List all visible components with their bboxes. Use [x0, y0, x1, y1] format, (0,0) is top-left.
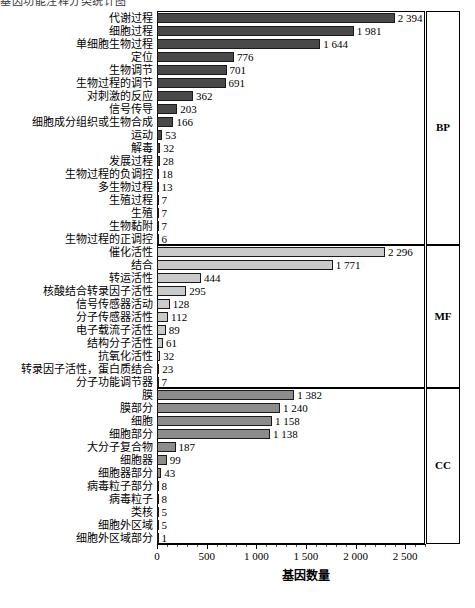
bar	[157, 273, 201, 283]
x-axis-title: 基因数量	[282, 566, 330, 584]
category-label: 分子功能调节器	[76, 376, 153, 389]
category-label: 细胞器部分	[98, 467, 153, 480]
bar	[157, 416, 272, 426]
x-tick-minor	[385, 545, 386, 547]
bar-row: 分子传感器活性112	[157, 311, 425, 324]
category-label: 细胞部分	[109, 428, 153, 441]
x-tick-minor	[236, 545, 237, 547]
bar-value-label: 1 981	[354, 25, 382, 38]
x-tick-major	[306, 545, 307, 549]
bar-row: 结合1 771	[157, 259, 425, 272]
bar-row: 生物过程的正调控6	[157, 233, 425, 246]
category-label: 大分子复合物	[87, 441, 153, 454]
x-tick-minor	[276, 545, 277, 547]
category-label: 类核	[131, 506, 153, 519]
bar-value-label: 1 382	[294, 389, 322, 402]
category-label: 转运活性	[109, 272, 153, 285]
category-label: 细胞器	[120, 454, 153, 467]
bar-row: 分子功能调节器7	[157, 376, 425, 389]
bar-value-label: 13	[159, 181, 173, 194]
ontology-label-bp: BP	[426, 121, 460, 133]
bar-row: 细胞1 158	[157, 415, 425, 428]
category-label: 催化活性	[109, 246, 153, 259]
x-tick-minor	[226, 545, 227, 547]
bar-row: 大分子复合物187	[157, 441, 425, 454]
bar-row: 运动53	[157, 129, 425, 142]
category-label: 核酸结合转录因子活性	[43, 285, 153, 298]
category-label: 定位	[131, 51, 153, 64]
x-tick-minor	[266, 545, 267, 547]
x-tick-label: 0	[154, 550, 160, 562]
bar-value-label: 8	[159, 480, 168, 493]
bar	[157, 390, 294, 400]
bar-value-label: 99	[167, 454, 181, 467]
bar-row: 细胞成分组织或生物合成166	[157, 116, 425, 129]
bar-value-label: 1 771	[333, 259, 361, 272]
category-label: 细胞外区域	[98, 519, 153, 532]
category-label: 电子载流子活性	[76, 324, 153, 337]
bar-row: 病毒粒子8	[157, 493, 425, 506]
x-tick-major	[356, 545, 357, 549]
bar-row: 生物黏附7	[157, 220, 425, 233]
x-tick-minor	[326, 545, 327, 547]
bar	[157, 104, 177, 114]
bar-value-label: 1 158	[272, 415, 300, 428]
bar-row: 电子载流子活性89	[157, 324, 425, 337]
bar-value-label: 1 644	[320, 38, 348, 51]
bar	[157, 286, 186, 296]
category-label: 转录因子活性，蛋白质结合	[21, 363, 153, 376]
bar-value-label: 6	[159, 233, 168, 246]
x-tick-minor	[395, 545, 396, 547]
bar-row: 发展过程28	[157, 155, 425, 168]
bar	[157, 65, 227, 75]
bar-row: 定位776	[157, 51, 425, 64]
bar-row: 核酸结合转录因子活性295	[157, 285, 425, 298]
x-tick-major	[405, 545, 406, 549]
bar-row: 膜部分1 240	[157, 402, 425, 415]
x-tick-minor	[286, 545, 287, 547]
category-label: 多生物过程	[98, 181, 153, 194]
bar-value-label: 7	[159, 194, 168, 207]
bar-value-label: 7	[159, 207, 168, 220]
x-tick-major	[157, 545, 158, 549]
bar-value-label: 5	[159, 506, 168, 519]
bar-value-label: 32	[160, 350, 174, 363]
bar-row: 结构分子活性61	[157, 337, 425, 350]
bar-value-label: 203	[177, 103, 197, 116]
bar	[157, 91, 193, 101]
bar-row: 多生物过程13	[157, 181, 425, 194]
go-annotation-bar-chart: 基因功能注释分类统计图 BPMFCC 代谢过程2 394细胞过程1 981单细胞…	[0, 0, 475, 608]
bar-value-label: 43	[161, 467, 175, 480]
category-label: 细胞过程	[109, 25, 153, 38]
bar-value-label: 701	[227, 64, 247, 77]
category-label: 发展过程	[109, 155, 153, 168]
x-tick-minor	[177, 545, 178, 547]
category-label: 膜部分	[120, 402, 153, 415]
bar-value-label: 128	[170, 298, 190, 311]
bar-row: 细胞器99	[157, 454, 425, 467]
bar-value-label: 776	[234, 51, 254, 64]
category-label: 信号传感器活动	[76, 298, 153, 311]
bar-row: 生物过程的负调控18	[157, 168, 425, 181]
bar-row: 信号传感器活动128	[157, 298, 425, 311]
x-tick-minor	[296, 545, 297, 547]
category-label: 单细胞生物过程	[76, 38, 153, 51]
bar-value-label: 2 394	[395, 12, 423, 25]
category-label: 生殖过程	[109, 194, 153, 207]
x-tick-minor	[217, 545, 218, 547]
category-label: 分子传感器活性	[76, 311, 153, 324]
x-tick-label: 500	[198, 550, 215, 562]
category-label: 抗氧化活性	[98, 350, 153, 363]
category-label: 细胞成分组织或生物合成	[32, 116, 153, 129]
category-label: 生物过程的调节	[76, 77, 153, 90]
bar-value-label: 32	[160, 142, 174, 155]
x-tick-label: 1 000	[244, 550, 269, 562]
bar-value-label: 53	[162, 129, 176, 142]
category-label: 运动	[131, 129, 153, 142]
bar	[157, 325, 166, 335]
bar-value-label: 89	[166, 324, 180, 337]
x-tick-label: 2 000	[343, 550, 368, 562]
category-label: 结合	[131, 259, 153, 272]
bar	[157, 442, 176, 452]
x-tick-minor	[425, 545, 426, 547]
